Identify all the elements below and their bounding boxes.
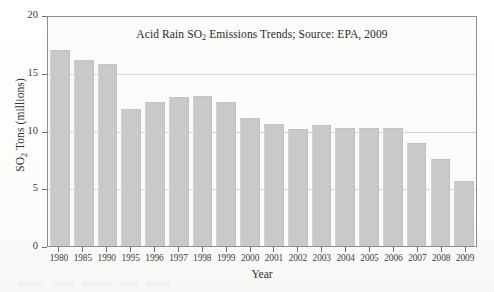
x-axis-ticks (47, 247, 477, 252)
chart-title: Acid Rain SO2 Emissions Trends; Source: … (48, 28, 476, 40)
y-axis-tick-label: 10 (12, 125, 38, 136)
bar-slot (214, 17, 238, 246)
x-axis-tick (130, 247, 131, 252)
bar-slot (48, 17, 72, 246)
bar-slot (357, 17, 381, 246)
x-axis-tick-label: 1997 (166, 253, 190, 263)
bar-2003[interactable] (312, 125, 332, 246)
x-axis-tick (465, 247, 466, 252)
plot-area: Acid Rain SO2 Emissions Trends; Source: … (47, 16, 477, 247)
bar-2009[interactable] (454, 181, 474, 246)
scan-artifact (120, 281, 138, 286)
x-axis-tick-label: 2008 (429, 253, 453, 263)
x-axis-tick-label: 1996 (143, 253, 167, 263)
bar-2005[interactable] (359, 128, 379, 246)
x-axis-tick-label: 2009 (453, 253, 477, 263)
bar-1999[interactable] (216, 102, 236, 246)
bar-1985[interactable] (74, 60, 94, 246)
x-axis-tick-slot (429, 247, 453, 252)
y-axis-tick-label: 5 (12, 182, 38, 193)
chart-title-subscript: 2 (202, 33, 206, 42)
chart-title-after: Emissions Trends; Source: EPA, 2009 (206, 28, 387, 40)
y-axis-tick-label: 15 (12, 67, 38, 78)
x-axis-tick-label: 1990 (95, 253, 119, 263)
bar-2008[interactable] (431, 159, 451, 246)
bar-2000[interactable] (240, 118, 260, 246)
x-axis-tick-label: 2000 (238, 253, 262, 263)
x-axis-tick-label: 2002 (286, 253, 310, 263)
figure-container: SO2 Tons (millions) 05101520 Acid Rain S… (0, 0, 494, 292)
bar-slot (333, 17, 357, 246)
x-axis-tick-slot (405, 247, 429, 252)
x-axis-tick-slot (119, 247, 143, 252)
bar-2006[interactable] (383, 128, 403, 246)
x-axis-tick (345, 247, 346, 252)
bar-slot (191, 17, 215, 246)
scan-artifact (18, 281, 44, 286)
x-axis-tick (202, 247, 203, 252)
x-axis-tick-label: 1995 (119, 253, 143, 263)
x-axis-tick (154, 247, 155, 252)
bar-2001[interactable] (264, 124, 284, 246)
bar-1995[interactable] (121, 109, 141, 246)
x-axis-tick-label: 1998 (190, 253, 214, 263)
x-axis-tick (417, 247, 418, 252)
chart-title-before: Acid Rain SO (136, 28, 202, 40)
x-axis-tick-slot (71, 247, 95, 252)
x-axis-tick (273, 247, 274, 252)
x-axis-tick-slot (334, 247, 358, 252)
bar-2004[interactable] (335, 128, 355, 246)
x-axis-tick-labels: 1980198519901995199619971998199920002001… (47, 253, 477, 263)
y-axis-tick-label: 20 (12, 9, 38, 20)
x-axis-tick (321, 247, 322, 252)
x-axis-tick (393, 247, 394, 252)
bar-slot (143, 17, 167, 246)
x-axis-tick (297, 247, 298, 252)
x-axis-tick-label: 1980 (47, 253, 71, 263)
bar-2007[interactable] (407, 143, 427, 246)
x-axis-tick (178, 247, 179, 252)
bar-series (48, 17, 476, 246)
bar-slot (238, 17, 262, 246)
x-axis-tick-label: 2005 (358, 253, 382, 263)
bar-2002[interactable] (288, 129, 308, 246)
y-axis-title-subscript: 2 (20, 153, 29, 157)
x-axis-tick-slot (310, 247, 334, 252)
bar-1997[interactable] (169, 97, 189, 246)
bar-slot (96, 17, 120, 246)
bar-slot (262, 17, 286, 246)
x-axis-tick-label: 2006 (381, 253, 405, 263)
x-axis-tick-slot (47, 247, 71, 252)
x-axis-tick-slot (262, 247, 286, 252)
x-axis-tick-slot (286, 247, 310, 252)
y-axis-title-before: SO (14, 157, 26, 172)
bar-1996[interactable] (145, 102, 165, 246)
x-axis-tick-slot (238, 247, 262, 252)
bar-slot (452, 17, 476, 246)
bar-slot (72, 17, 96, 246)
x-axis-tick-slot (381, 247, 405, 252)
plot-inner: Acid Rain SO2 Emissions Trends; Source: … (48, 17, 476, 246)
x-axis-tick-slot (214, 247, 238, 252)
x-axis-tick (226, 247, 227, 252)
bar-slot (381, 17, 405, 246)
bar-1998[interactable] (193, 96, 213, 246)
bar-1990[interactable] (98, 64, 118, 246)
x-axis-tick-slot (358, 247, 382, 252)
bar-slot (429, 17, 453, 246)
scan-artifact (146, 281, 170, 286)
x-axis-tick-slot (143, 247, 167, 252)
x-axis-tick (250, 247, 251, 252)
scan-artifact (52, 281, 74, 286)
x-axis-tick-label: 2004 (334, 253, 358, 263)
y-axis-tick-label: 0 (12, 240, 38, 251)
x-axis-tick (82, 247, 83, 252)
x-axis-tick (441, 247, 442, 252)
x-axis-tick (58, 247, 59, 252)
bar-slot (405, 17, 429, 246)
x-axis-tick-label: 2001 (262, 253, 286, 263)
bar-slot (167, 17, 191, 246)
bar-1980[interactable] (50, 50, 70, 246)
bar-slot (310, 17, 334, 246)
x-axis-tick-slot (166, 247, 190, 252)
